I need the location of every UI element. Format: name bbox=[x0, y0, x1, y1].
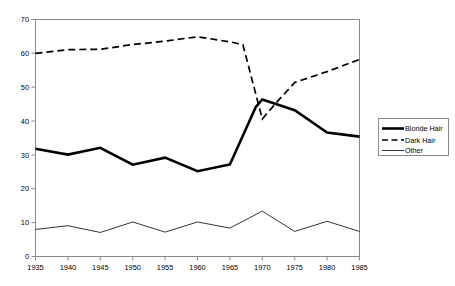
x-tick-label-1975: 1975 bbox=[286, 263, 302, 272]
legend-label-blonde-hair: Blonde Hair bbox=[405, 124, 443, 133]
y-tick-label-10: 10 bbox=[21, 218, 29, 227]
x-tick-label-1960: 1960 bbox=[189, 263, 205, 272]
y-tick-label-30: 30 bbox=[21, 151, 29, 160]
chart-legend: Blonde Hair Dark Hair Other bbox=[379, 119, 449, 156]
x-tick-label-1980: 1980 bbox=[319, 263, 335, 272]
x-tick-label-1940: 1940 bbox=[60, 263, 76, 272]
x-tick-label-1935: 1935 bbox=[27, 263, 43, 272]
legend-label-other: Other bbox=[405, 146, 424, 155]
x-tick-label-1985: 1985 bbox=[351, 263, 367, 272]
legend-label-dark-hair: Dark Hair bbox=[405, 136, 436, 145]
x-tick-label-1955: 1955 bbox=[157, 263, 173, 272]
y-tick-label-50: 50 bbox=[21, 83, 29, 92]
y-tick-label-20: 20 bbox=[21, 184, 29, 193]
y-tick-label-0: 0 bbox=[25, 252, 29, 261]
chart-canvas: 0 10 20 30 40 50 60 70 1935 1940 1945 19 bbox=[0, 0, 455, 286]
y-tick-label-40: 40 bbox=[21, 117, 29, 126]
y-tick-label-70: 70 bbox=[21, 15, 29, 24]
x-tick-label-1950: 1950 bbox=[124, 263, 140, 272]
line-chart: 0 10 20 30 40 50 60 70 1935 1940 1945 19 bbox=[0, 0, 455, 286]
x-tick-label-1945: 1945 bbox=[92, 263, 108, 272]
x-tick-label-1965: 1965 bbox=[222, 263, 238, 272]
y-tick-label-60: 60 bbox=[21, 49, 29, 58]
x-tick-label-1970: 1970 bbox=[254, 263, 270, 272]
